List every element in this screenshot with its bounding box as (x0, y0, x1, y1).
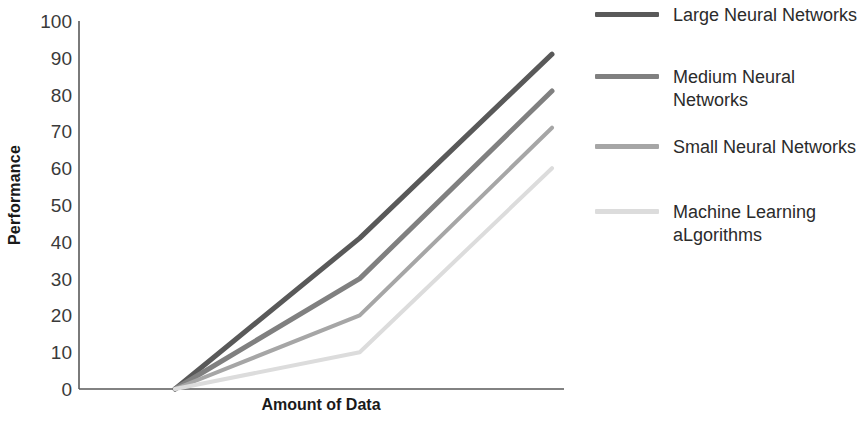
legend-item-label: Large Neural Networks (673, 4, 857, 27)
y-axis-tick-label: 50 (28, 196, 72, 215)
plot-svg (76, 14, 566, 396)
y-axis-tick-label: 100 (28, 12, 72, 31)
y-axis-tick-label: 30 (28, 269, 72, 288)
y-axis-tick-label: 90 (28, 48, 72, 67)
chart-legend: Large Neural NetworksMedium Neural Netwo… (576, 0, 867, 300)
y-axis-tick-label: 60 (28, 159, 72, 178)
y-axis-tick-label: 10 (28, 343, 72, 362)
legend-line-swatch (595, 74, 659, 79)
y-axis-tick-label: 40 (28, 232, 72, 251)
legend-item-label: Machine Learning aLgorithms (673, 201, 867, 247)
legend-line-swatch (595, 144, 659, 149)
legend-line-swatch (595, 12, 659, 17)
legend-line-swatch (595, 209, 659, 214)
axis-lines (79, 21, 564, 389)
y-axis-tick-labels: 1009080706050403020100 (20, 0, 72, 424)
x-axis-title: Amount of Data (76, 396, 566, 414)
plot-area (76, 14, 566, 396)
y-axis-tick-label: 0 (28, 380, 72, 399)
data-series-lines (175, 54, 552, 389)
legend-item-label: Small Neural Networks (673, 136, 856, 159)
y-axis-tick-label: 20 (28, 306, 72, 325)
legend-item[interactable]: Medium Neural Networks (576, 66, 867, 112)
y-axis-tick-label: 70 (28, 122, 72, 141)
legend-item[interactable]: Large Neural Networks (576, 4, 867, 27)
legend-item[interactable]: Small Neural Networks (576, 136, 867, 159)
x-axis-title-text: Amount of Data (261, 396, 380, 413)
chart-figure: Performance 1009080706050403020100 Amoun… (0, 0, 867, 424)
legend-item-label: Medium Neural Networks (673, 66, 867, 112)
y-axis-tick-label: 80 (28, 85, 72, 104)
legend-item[interactable]: Machine Learning aLgorithms (576, 201, 867, 247)
